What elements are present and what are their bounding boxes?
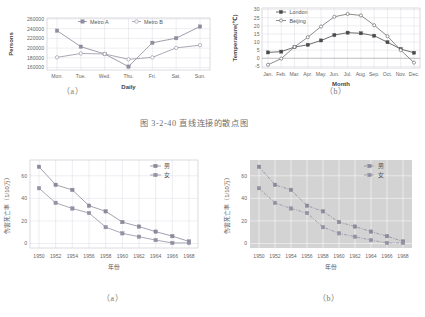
y-tick-label: 60 [241, 173, 247, 179]
x-tick-label: 1962 [349, 253, 360, 259]
x-axis-label: Daily [121, 84, 136, 90]
data-point-marker [401, 241, 405, 245]
chart-metro: 160000180000200000220000240000260000Mon.… [0, 0, 215, 100]
x-tick-label: 1968 [183, 253, 194, 259]
legend-label: Beijing [290, 18, 306, 24]
data-point-marker [337, 232, 341, 236]
legend-label: London [290, 9, 308, 15]
data-point-marker [368, 173, 372, 177]
data-point-marker [368, 164, 372, 168]
data-point-marker [373, 34, 376, 37]
data-point-marker [104, 210, 108, 214]
x-tick-label: Tue. [76, 73, 86, 79]
legend-label: 男 [378, 163, 384, 170]
x-tick-label: 1952 [50, 253, 61, 259]
data-point-marker [174, 46, 177, 49]
y-tick-label: 240000 [27, 26, 44, 32]
legend-label: 女 [378, 171, 384, 179]
x-tick-label: 1964 [365, 253, 376, 259]
x-axis-label: 年份 [325, 263, 337, 271]
data-point-marker [198, 25, 201, 28]
x-tick-label: Sun. [195, 73, 205, 79]
x-tick-label: Oct. [383, 71, 392, 77]
data-point-marker [104, 225, 108, 229]
y-axis-label: Temperature(℃) [232, 14, 238, 61]
x-tick-label: 1956 [83, 253, 94, 259]
subcaption-bottom-b: （b） [318, 292, 340, 303]
data-point-marker [257, 186, 261, 190]
subcaption-top-b: （b） [325, 85, 347, 96]
data-point-marker [373, 24, 376, 27]
y-tick-label: 10 [254, 39, 260, 45]
x-tick-label: 1966 [167, 253, 178, 259]
data-point-marker [359, 14, 362, 17]
chart-injury-mortality-a: 0204060195019521954195619581960196219641… [0, 152, 215, 280]
data-point-marker [305, 211, 309, 215]
data-point-marker [79, 52, 82, 55]
subcaption-top-a: （a） [62, 85, 83, 96]
y-tick-label: 30 [254, 6, 260, 12]
x-tick-label: Jul. [344, 71, 352, 77]
data-point-marker [385, 234, 389, 238]
data-point-marker [103, 52, 106, 55]
y-tick-label: 0 [244, 240, 247, 246]
x-tick-label: 1956 [301, 253, 312, 259]
data-point-marker [135, 20, 138, 23]
x-tick-label: Jan. [263, 71, 273, 77]
x-tick-label: 1950 [253, 253, 264, 259]
data-point-marker [79, 45, 82, 48]
x-tick-label: May. [316, 71, 327, 77]
x-tick-label: Dec. [409, 71, 419, 77]
x-tick-label: Mar. [290, 71, 300, 77]
data-point-marker [55, 56, 58, 59]
y-tick-label: 180000 [27, 55, 44, 61]
y-tick-label: 220000 [27, 35, 44, 41]
data-point-marker [369, 230, 373, 234]
data-point-marker [154, 164, 158, 168]
x-tick-label: Nov. [396, 71, 406, 77]
data-point-marker [305, 204, 309, 208]
y-tick-label: 5 [257, 47, 260, 53]
data-point-marker [198, 44, 201, 47]
data-point-marker [54, 183, 58, 187]
data-point-marker [71, 188, 75, 192]
data-point-marker [121, 220, 125, 224]
y-tick-label: 25 [254, 15, 260, 21]
data-point-marker [151, 41, 154, 44]
x-tick-label: 1964 [150, 253, 161, 259]
legend-label: 女 [164, 171, 170, 179]
data-point-marker [121, 232, 125, 236]
x-tick-label: Thu. [123, 73, 133, 79]
data-point-marker [37, 186, 41, 190]
x-tick-label: Sat. [172, 73, 181, 79]
y-tick-label: 0 [257, 55, 260, 61]
data-point-marker [55, 29, 58, 32]
x-tick-label: 1950 [33, 253, 44, 259]
x-tick-label: 1958 [100, 253, 111, 259]
figure-main-caption: 图 3-2-40 直线连接的散点图 [140, 116, 248, 128]
x-tick-label: 1954 [67, 253, 78, 259]
y-tick-label: 200000 [27, 45, 44, 51]
y-tick-label: 160000 [27, 64, 44, 70]
data-point-marker [280, 57, 283, 60]
data-point-marker [37, 165, 41, 169]
data-point-marker [266, 63, 269, 66]
figure-page: 160000180000200000220000240000260000Mon.… [0, 0, 425, 317]
data-point-marker [257, 165, 261, 169]
chart-injury-mortality-b-svg: 0204060195019521954195619581960196219641… [212, 152, 425, 280]
x-tick-label: 1966 [381, 253, 392, 259]
data-point-marker [137, 235, 141, 239]
x-tick-label: Jun. [330, 71, 340, 77]
data-point-marker [174, 36, 177, 39]
data-point-marker [412, 61, 415, 64]
data-point-marker [171, 234, 175, 238]
y-axis-label: 伤害死亡率（1/10万） [223, 174, 231, 233]
x-tick-label: 1958 [317, 253, 328, 259]
data-point-marker [386, 35, 389, 38]
data-point-marker [306, 36, 309, 39]
data-point-marker [289, 207, 293, 211]
x-tick-label: Mon. [51, 73, 62, 79]
x-tick-label: 1954 [285, 253, 296, 259]
y-tick-label: 40 [241, 195, 247, 201]
data-point-marker [171, 241, 175, 245]
